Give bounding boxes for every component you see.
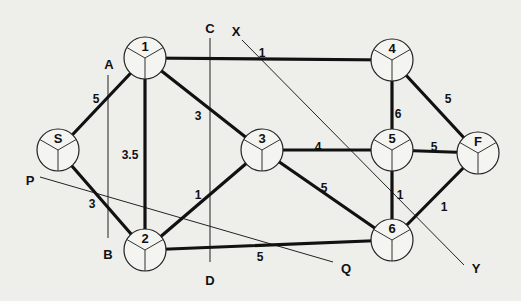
cut-label: Y [472,261,481,276]
node-label: 6 [388,221,395,236]
edge-weight: 3.5 [122,148,139,162]
node-label: 2 [141,231,148,246]
node-3: 3 [241,129,283,171]
edge-weight: 4 [315,140,322,154]
node-label: 1 [141,39,148,54]
edge-weight: 6 [395,107,402,121]
node-1: 1 [124,37,166,79]
cut-label: A [104,57,114,72]
edge-weight: 3 [89,197,96,211]
edge-weight: 5 [93,92,100,106]
node-label: F [474,134,482,149]
cut-label: X [232,24,241,39]
edge-weight: 5 [445,92,452,106]
graph-svg: S12345F6 ABCDXYPQ533.513154565511 [0,0,521,301]
cut-label: P [26,173,35,188]
node-5: 5 [371,129,413,171]
edge-weight: 5 [257,250,264,264]
edge-weight: 1 [195,188,202,202]
cut-label: D [205,273,214,288]
node-f: F [457,132,499,174]
edge-2-3 [145,150,262,250]
cut-label: Q [341,261,351,276]
edge-2-6 [145,240,392,250]
edge-1-3 [145,58,262,150]
node-4: 4 [371,39,413,81]
node-s: S [37,129,79,171]
edge-weight: 5 [321,181,328,195]
node-label: 4 [388,41,396,56]
node-label: 3 [258,131,265,146]
edge-weight: 1 [259,46,266,60]
edge-weight: 1 [397,188,404,202]
cut-label: B [103,247,112,262]
network-diagram: S12345F6 ABCDXYPQ533.513154565511 [0,0,521,301]
edge-weight: 1 [441,200,448,214]
node-label: S [54,131,63,146]
cut-label: C [205,21,215,36]
node-label: 5 [388,131,395,146]
edge-weight: 3 [195,109,202,123]
edge-1-4 [145,58,392,60]
edge-weight: 5 [431,140,438,154]
node-6: 6 [371,219,413,261]
node-2: 2 [124,229,166,271]
